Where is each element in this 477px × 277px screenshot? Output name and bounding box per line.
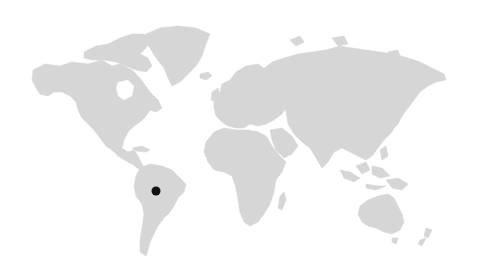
- world-map: [0, 0, 477, 277]
- australia: [358, 194, 404, 234]
- tasmania: [392, 238, 398, 244]
- location-marker-dot[interactable]: [152, 187, 161, 196]
- iceland: [200, 72, 212, 80]
- south-america: [134, 164, 186, 256]
- north-america: [32, 60, 162, 170]
- new-guinea: [386, 178, 408, 190]
- new-zealand: [418, 228, 432, 246]
- madagascar: [278, 192, 286, 210]
